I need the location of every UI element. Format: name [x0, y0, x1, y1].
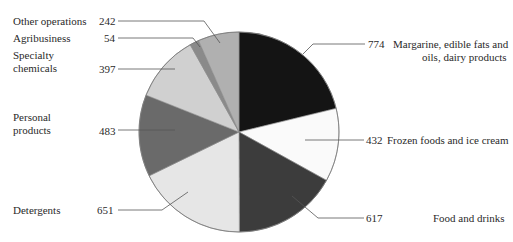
value-agribusiness: 54 — [104, 32, 115, 45]
value-specialty-chemicals: 397 — [99, 63, 116, 76]
value-margarine: 774 — [368, 38, 385, 51]
label-personal-products-2: products — [13, 124, 51, 137]
label-specialty-chemicals-1: Specialty — [13, 49, 54, 62]
pie-chart — [0, 0, 513, 242]
value-frozen-foods: 432 — [366, 134, 383, 147]
label-agribusiness: Agribusiness — [13, 32, 70, 45]
leader-line — [118, 38, 200, 47]
value-other-operations: 242 — [99, 15, 116, 28]
label-other-operations: Other operations — [13, 15, 87, 28]
label-personal-products-1: Personal — [13, 111, 51, 124]
value-personal-products: 483 — [99, 125, 116, 138]
label-margarine-2: oils, dairy products — [422, 51, 507, 64]
label-food-drinks: Food and drinks — [433, 212, 505, 225]
value-food-drinks: 617 — [366, 212, 383, 225]
leader-line — [303, 44, 365, 54]
label-detergents: Detergents — [13, 204, 60, 217]
label-specialty-chemicals-2: chemicals — [13, 62, 57, 75]
label-frozen-foods: Frozen foods and ice cream — [387, 134, 509, 147]
value-detergents: 651 — [97, 204, 114, 217]
label-margarine-1: Margarine, edible fats and — [393, 38, 508, 51]
